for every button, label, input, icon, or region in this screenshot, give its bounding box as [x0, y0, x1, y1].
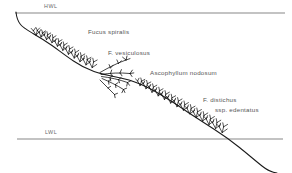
species-label-ssp-edentatus: ssp. edentatus: [215, 107, 259, 114]
shore-zonation-figure: HWL LWL Fucus spiralis F. vesiculosus As…: [0, 0, 292, 173]
species-label-ascophyllum-nodosum: Ascophyllum nodosum: [150, 70, 217, 77]
lwl-label: LWL: [45, 130, 57, 136]
species-label-fucus-distichus: F. distichus: [203, 97, 237, 104]
species-label-fucus-spiralis: Fucus spiralis: [88, 29, 129, 36]
figure-canvas: [0, 0, 292, 173]
fucus-distichus-zone-drawing: [135, 78, 227, 133]
species-label-fucus-vesiculosus: F. vesiculosus: [108, 50, 150, 57]
hwl-label: HWL: [44, 4, 57, 10]
